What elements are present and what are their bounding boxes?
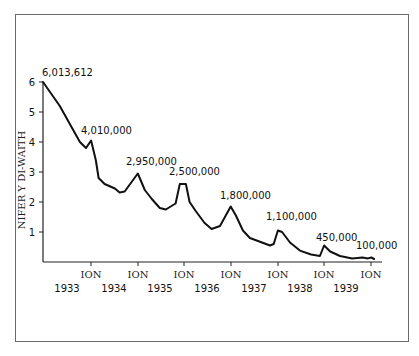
x-tick-label: ION [81,269,102,280]
peak-label: 100,000 [356,240,397,251]
year-label: 1935 [147,283,172,294]
x-tick-label: ION [174,269,195,280]
year-label: 1937 [241,283,266,294]
y-tick-label: 4 [29,137,35,148]
year-label: 1938 [287,283,312,294]
peak-label: 1,800,000 [220,190,271,201]
y-ticks: 1 2 3 4 5 6 [29,77,43,238]
year-label: 1934 [101,283,126,294]
y-tick-label: 1 [29,227,35,238]
y-tick-label: 5 [29,107,35,118]
year-label: 1933 [54,283,79,294]
peak-label: 450,000 [316,232,357,243]
peak-label: 6,013,612 [42,67,93,78]
x-tick-label: ION [221,269,242,280]
x-tick-labels: ION ION ION ION ION ION ION [81,269,382,280]
x-tick-label: ION [314,269,335,280]
x-tick-label: ION [361,269,382,280]
y-tick-label: 6 [29,77,35,88]
year-label: 1936 [194,283,219,294]
peak-label: 2,500,000 [169,166,220,177]
x-tick-label: ION [268,269,289,280]
x-tick-label: ION [128,269,149,280]
y-tick-label: 3 [29,167,35,178]
peak-label: 4,010,000 [81,125,132,136]
year-labels: 1933 1934 1935 1936 1937 1938 1939 [54,283,358,294]
y-axis-title: NIFER Y DI-WAITH [16,130,27,229]
unemployment-line-chart: 1 2 3 4 5 6 NIFER Y DI-WAITH ION ION ION… [0,0,419,356]
peak-label: 1,100,000 [266,211,317,222]
year-label: 1939 [333,283,358,294]
y-tick-label: 2 [29,197,35,208]
